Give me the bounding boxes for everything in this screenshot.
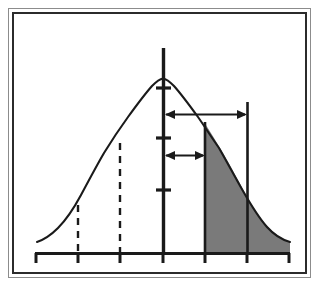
outer-measurement-arrow xyxy=(165,110,247,119)
figure-root xyxy=(0,0,323,290)
distribution-plot xyxy=(0,0,323,290)
inner-measurement-arrow xyxy=(165,151,205,160)
